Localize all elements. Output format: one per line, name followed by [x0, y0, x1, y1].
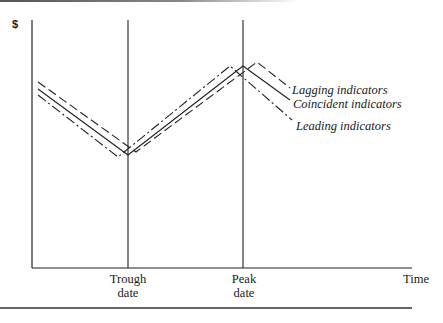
leading-indicators-line — [38, 66, 292, 157]
trough-date-label: Trough date — [98, 272, 158, 300]
x-axis-label: Time — [386, 272, 443, 286]
peak-label-line1: Peak — [214, 272, 274, 286]
legend-coincident-label: Coincident indicators — [293, 97, 402, 111]
peak-date-label: Peak date — [214, 272, 274, 300]
y-axis-label: $ — [12, 17, 18, 31]
legend-lagging-label: Lagging indicators — [292, 83, 388, 97]
peak-label-line2: date — [214, 286, 274, 300]
coincident-indicators-line — [38, 66, 290, 155]
lagging-indicators-line — [38, 62, 290, 152]
trough-label-line1: Trough — [98, 272, 158, 286]
trough-label-line2: date — [98, 286, 158, 300]
legend-leading-label: Leading indicators — [296, 119, 391, 133]
